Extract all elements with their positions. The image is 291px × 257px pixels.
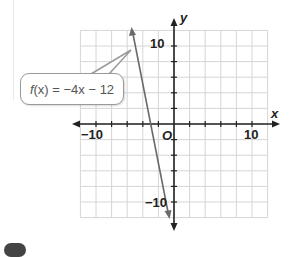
line-up-arrow-icon	[129, 27, 136, 36]
y-axis-up-arrow-icon	[171, 18, 178, 26]
x-tick-label-neg10: −10	[81, 127, 103, 142]
y-axis-down-arrow-icon	[171, 223, 178, 231]
y-tick-label-neg10: −10	[145, 195, 167, 210]
callout-equation: (x) = −4x − 12	[34, 82, 115, 97]
y-tick-label-10: 10	[150, 36, 164, 51]
y-axis-label: y	[179, 10, 188, 25]
x-axis-right-arrow-icon	[272, 121, 280, 128]
bottom-decoration	[4, 243, 26, 257]
x-tick-label-10: 10	[244, 127, 258, 142]
origin-label: O	[162, 128, 172, 143]
x-axis-label: x	[270, 106, 279, 121]
function-line	[129, 27, 172, 219]
function-callout: f(x) = −4x − 12	[20, 73, 124, 105]
x-axis-left-arrow-icon	[72, 121, 80, 128]
